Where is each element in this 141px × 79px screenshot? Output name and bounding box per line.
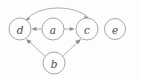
edge-b-to-d-path: [28, 41, 46, 57]
edge-b-to-c-path: [63, 41, 80, 57]
edge-a-to-c-arrowhead: [70, 27, 75, 31]
node-e[interactable]: e: [105, 19, 126, 40]
edge-a-to-d-arrowhead: [31, 27, 36, 31]
node-b-label: b: [51, 58, 58, 70]
node-d-label: d: [17, 24, 24, 36]
node-c-label: c: [84, 24, 90, 36]
edge-a-to-d[interactable]: [31, 27, 42, 31]
graph-figure: d a c e b: [0, 0, 141, 79]
node-c[interactable]: c: [76, 18, 98, 40]
graph-canvas: d a c e b: [0, 0, 141, 79]
node-e-label: e: [112, 24, 118, 36]
node-a[interactable]: a: [42, 18, 64, 40]
node-d[interactable]: d: [9, 18, 31, 40]
edge-b-to-d[interactable]: [26, 39, 45, 57]
edge-d-c-arc-path: [26, 8, 88, 20]
edge-b-to-c[interactable]: [63, 39, 82, 57]
node-a-label: a: [50, 24, 56, 36]
node-b[interactable]: b: [43, 52, 65, 74]
edge-a-to-c[interactable]: [64, 27, 75, 31]
node-layer: d a c e b: [9, 18, 126, 74]
